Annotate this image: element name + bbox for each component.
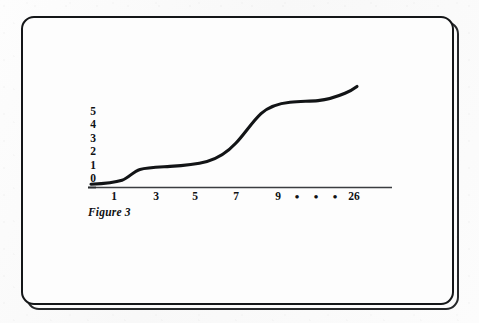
figure-caption: Figure 3: [88, 206, 131, 218]
x-tick-ellipsis-1: •: [295, 189, 300, 205]
x-tick-26: 26: [348, 190, 360, 202]
y-tick-2: 2: [86, 145, 100, 158]
y-tick-3: 3: [86, 132, 100, 145]
x-tick-ellipsis-3: •: [333, 189, 338, 205]
y-tick-4: 4: [86, 118, 100, 131]
y-tick-0: 0: [86, 172, 100, 185]
y-tick-1: 1: [86, 159, 100, 172]
y-tick-5: 5: [86, 105, 100, 118]
x-tick-5: 5: [192, 190, 198, 202]
x-tick-7-label: 7: [233, 190, 239, 202]
x-tick-1: 1: [111, 190, 117, 202]
y-axis-tick-labels: 5 4 3 2 1 0: [86, 105, 100, 185]
x-tick-3: 3: [153, 190, 159, 202]
x-tick-ellipsis-2: •: [314, 189, 319, 205]
figure-page: 5 4 3 2 1 0 1 3 5 7 9 • • • 26 Figure 3: [0, 0, 479, 323]
x-tick-9: 9: [275, 190, 281, 202]
